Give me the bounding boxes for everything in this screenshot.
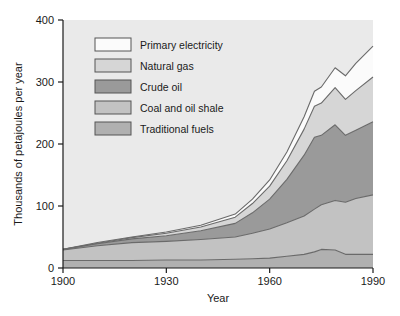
legend-label: Coal and oil shale [140,102,224,114]
y-tick-label: 400 [36,14,54,26]
y-tick-label: 0 [48,262,54,274]
y-tick-label: 200 [36,138,54,150]
legend-swatch [95,122,131,135]
legend-swatch [95,80,131,93]
legend-label: Natural gas [140,60,194,72]
x-tick-label: 1960 [257,275,281,287]
legend-label: Traditional fuels [140,123,214,135]
y-tick-label: 300 [36,76,54,88]
legend-swatch [95,38,131,51]
chart-container: 0100200300400 1900193019601990 Year Thou… [0,0,400,316]
legend-swatch [95,59,131,72]
x-tick-label: 1930 [154,275,178,287]
legend-label: Crude oil [140,81,182,93]
y-tick-label: 100 [36,200,54,212]
legend-label: Primary electricity [140,39,224,51]
y-axis-title: Thousands of petajoules per year [12,62,24,226]
x-tick-label: 1990 [361,275,385,287]
x-tick-label: 1900 [51,275,75,287]
x-axis-title: Year [207,292,230,304]
stacked-area-chart: 0100200300400 1900193019601990 Year Thou… [0,0,400,316]
legend-swatch [95,101,131,114]
